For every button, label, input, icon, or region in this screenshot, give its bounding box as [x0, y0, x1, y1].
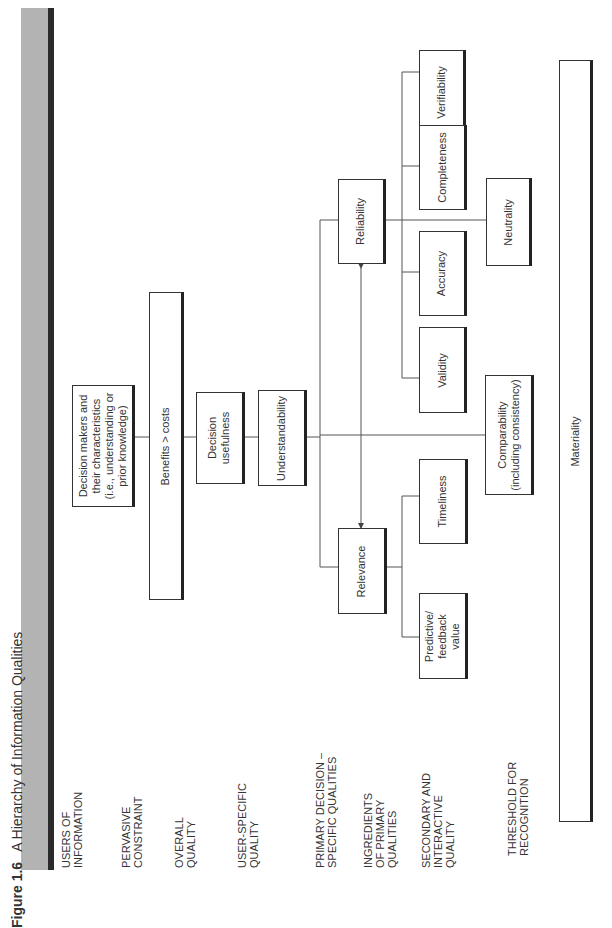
node-decision-usefulness-label: Decision usefulness	[207, 412, 233, 465]
node-benefits-costs-label: Benefits > costs	[159, 407, 172, 485]
node-neutrality-label: Neutrality	[502, 199, 515, 245]
node-timeliness-label: Timeliness	[436, 475, 449, 527]
node-verifiability: Verifiability	[419, 50, 466, 134]
node-predictive-feedback: Predictive/ feedback value	[419, 593, 468, 679]
node-materiality-label: Materiality	[569, 416, 582, 466]
node-completeness-label: Completeness	[436, 132, 449, 202]
node-validity-label: Validity	[436, 353, 449, 388]
node-decision-makers-label: Decision makers and their characteristic…	[77, 392, 129, 499]
node-understandability: Understandability	[258, 390, 307, 486]
node-reliability-label: Reliability	[355, 198, 368, 245]
node-completeness: Completeness	[419, 125, 467, 210]
node-materiality: Materiality	[559, 60, 593, 822]
node-accuracy: Accuracy	[419, 231, 467, 316]
node-verifiability-label: Verifiability	[435, 66, 448, 119]
node-accuracy-label: Accuracy	[436, 251, 449, 296]
node-comparability: Comparability (including consistency)	[485, 375, 534, 495]
node-decision-usefulness: Decision usefulness	[196, 392, 245, 484]
node-benefits-costs: Benefits > costs	[149, 292, 184, 600]
node-decision-makers: Decision makers and their characteristic…	[72, 385, 135, 507]
node-understandability-label: Understandability	[275, 396, 288, 481]
node-relevance-label: Relevance	[355, 545, 368, 597]
node-timeliness: Timeliness	[419, 459, 468, 544]
node-comparability-label: Comparability (including consistency)	[496, 379, 522, 490]
node-neutrality: Neutrality	[486, 178, 532, 266]
node-relevance: Relevance	[338, 528, 387, 614]
node-validity: Validity	[419, 327, 467, 413]
node-reliability: Reliability	[338, 179, 386, 264]
node-predictive-feedback-label: Predictive/ feedback value	[423, 610, 462, 661]
